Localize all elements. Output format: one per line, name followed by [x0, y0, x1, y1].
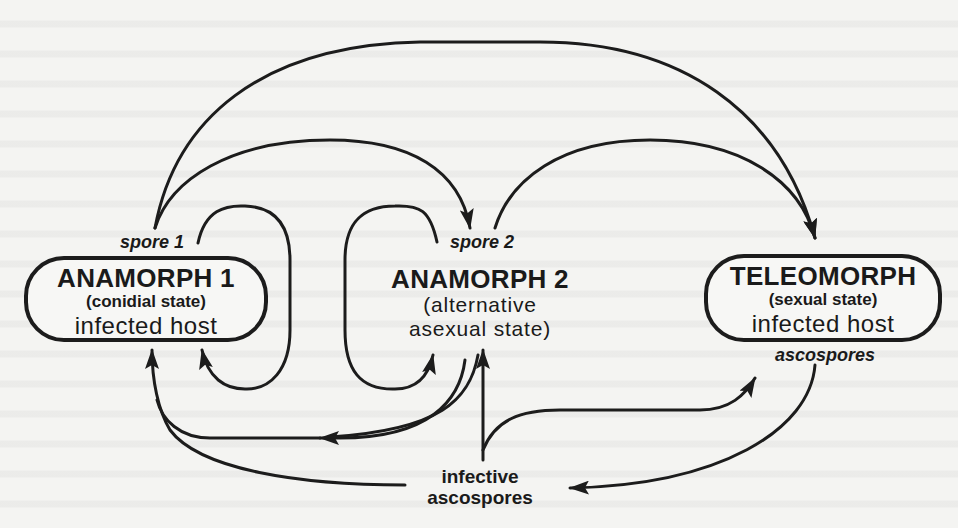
- anamorph2-node: ANAMORPH 2 (alternative asexual state): [380, 265, 580, 341]
- arrow-teleomorph-to-anamorph1: [320, 360, 465, 438]
- arrow-ascospores-to-infective: [570, 365, 815, 488]
- anamorph1-subtitle: (conidial state): [28, 292, 264, 312]
- teleomorph-box: TELEOMORPH (sexual state) infected host: [704, 254, 942, 342]
- anamorph2-subtitle-line1: (alternative: [380, 293, 580, 317]
- teleomorph-title: TELEOMORPH: [708, 262, 938, 290]
- teleomorph-host: infected host: [708, 310, 938, 338]
- anamorph1-box: ANAMORPH 1 (conidial state) infected hos…: [24, 256, 268, 342]
- arrow-infective-to-anamorph2-s: [483, 378, 755, 450]
- ascospores-label: ascospores: [775, 345, 875, 365]
- arrow-spore1-to-spore2: [155, 140, 470, 228]
- anamorph1-host: infected host: [28, 312, 264, 340]
- spore2-label: spore 2: [450, 232, 514, 252]
- infective-line2: ascospores: [410, 487, 550, 508]
- spore1-label: spore 1: [120, 232, 184, 252]
- arrow-spore1-to-teleomorph: [155, 42, 815, 238]
- anamorph1-title: ANAMORPH 1: [28, 264, 264, 292]
- infective-ascospores-label: infective ascospores: [410, 466, 550, 508]
- infective-line1: infective: [410, 466, 550, 487]
- anamorph2-title: ANAMORPH 2: [380, 265, 580, 293]
- life-cycle-diagram: ANAMORPH 1 (conidial state) infected hos…: [0, 0, 958, 528]
- teleomorph-subtitle: (sexual state): [708, 290, 938, 310]
- anamorph2-subtitle-line2: asexual state): [380, 317, 580, 341]
- arrow-spore2-to-teleomorph: [495, 140, 815, 238]
- arrow-return-to-anamorph1: [157, 400, 320, 438]
